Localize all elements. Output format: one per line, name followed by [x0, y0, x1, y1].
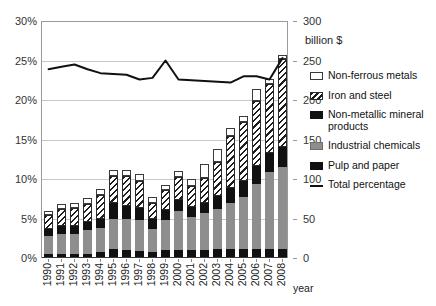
x-axis-tick-label: 2008: [276, 263, 287, 286]
x-axis-labels: 1990199119921993199419951996199719981999…: [41, 259, 288, 303]
x-axis-tick: [139, 259, 140, 262]
x-axis-tick-label: 1999: [159, 263, 170, 286]
x-axis-tick: [74, 259, 75, 262]
x-axis-tick: [87, 259, 88, 262]
x-axis-tick-label: 2003: [211, 263, 222, 286]
x-axis-tick-label: 1995: [107, 263, 118, 286]
right-axis-tick-label: 300: [303, 15, 321, 27]
x-axis-tick: [178, 259, 179, 262]
left-axis-tick: [33, 258, 37, 259]
x-axis-tick: [204, 259, 205, 262]
right-axis-tick-label: 250: [303, 55, 321, 67]
plot-area: [41, 21, 288, 258]
left-axis-tick: [33, 100, 37, 101]
x-axis-tick: [256, 259, 257, 262]
chart-legend: Non-ferrous metalsIron and steelNon-meta…: [310, 70, 436, 199]
x-axis-tick-label: 2001: [185, 263, 196, 286]
right-axis-tick: [293, 21, 297, 22]
x-axis-tick-label: 1994: [94, 263, 105, 286]
x-axis-tick-label: 1991: [55, 263, 66, 286]
x-axis-tick: [217, 259, 218, 262]
right-axis-tick: [293, 61, 297, 62]
x-axis-tick-label: 1993: [81, 263, 92, 286]
x-axis-tick-label: 1990: [42, 263, 53, 286]
right-axis-tick: [293, 179, 297, 180]
right-axis-tick-label: 0: [303, 252, 309, 264]
x-axis-tick: [126, 259, 127, 262]
x-axis-tick: [269, 259, 270, 262]
x-axis-tick: [152, 259, 153, 262]
right-axis-tick: [293, 100, 297, 101]
x-axis-tick: [61, 259, 62, 262]
left-axis-labels: 0%5%10%15%20%25%30%: [0, 21, 37, 258]
x-axis-title: year: [293, 282, 313, 294]
x-axis-tick-label: 1996: [120, 263, 131, 286]
left-axis-tick: [33, 61, 37, 62]
legend-item-label: Iron and steel: [328, 90, 436, 102]
total-percentage-line: [42, 21, 289, 258]
right-axis-tick: [293, 219, 297, 220]
line-swatch-icon: [310, 181, 323, 189]
left-axis-tick: [33, 21, 37, 22]
legend-item: Iron and steel: [310, 90, 436, 102]
x-axis-tick-label: 2006: [250, 263, 261, 286]
legend-item: Pulp and paper: [310, 160, 436, 172]
legend-item: Industrial chemicals: [310, 140, 436, 152]
legend-item: Total percentage: [310, 179, 436, 191]
legend-item-label: Non-metallic mineral products: [328, 109, 436, 132]
legend-item-label: Non-ferrous metals: [328, 70, 436, 82]
x-axis-tick: [191, 259, 192, 262]
left-axis-tick: [33, 140, 37, 141]
scan-artifact: [0, 0, 436, 8]
x-axis-tick: [243, 259, 244, 262]
legend-item: Non-metallic mineral products: [310, 109, 436, 132]
legend-item: Non-ferrous metals: [310, 70, 436, 82]
legend-item-label: Pulp and paper: [328, 160, 436, 172]
x-axis-tick-label: 2000: [172, 263, 183, 286]
right-axis-tick: [293, 258, 297, 259]
x-axis-tick: [230, 259, 231, 262]
x-axis-tick: [113, 259, 114, 262]
nonferrous-swatch-icon: [310, 72, 323, 80]
stacked-bar-chart: 0%5%10%15%20%25%30% 050100150200250300 b…: [0, 0, 436, 306]
x-axis-tick-label: 1992: [68, 263, 79, 286]
pulp-swatch-icon: [310, 162, 323, 170]
chemicals-swatch-icon: [310, 142, 323, 150]
legend-item-label: Industrial chemicals: [328, 140, 436, 152]
x-axis-tick-label: 2004: [224, 263, 235, 286]
x-axis-tick-label: 1997: [133, 263, 144, 286]
total-percentage-line-group: [42, 21, 287, 258]
x-axis-tick-label: 2002: [198, 263, 209, 286]
left-axis-tick: [33, 179, 37, 180]
nonmetallic-swatch-icon: [310, 111, 323, 119]
x-axis-tick: [48, 259, 49, 262]
right-axis-tick: [293, 140, 297, 141]
x-axis-tick-label: 1998: [146, 263, 157, 286]
x-axis-tick: [165, 259, 166, 262]
x-axis-line: [42, 257, 287, 258]
right-axis-unit-label: billion $: [305, 34, 342, 46]
x-axis-tick-label: 2005: [237, 263, 248, 286]
left-axis-tick: [33, 219, 37, 220]
iron-swatch-icon: [310, 92, 323, 100]
x-axis-tick-label: 2007: [263, 263, 274, 286]
x-axis-tick: [282, 259, 283, 262]
legend-item-label: Total percentage: [328, 179, 436, 191]
x-axis-tick: [100, 259, 101, 262]
right-axis-tick-label: 50: [303, 213, 315, 225]
